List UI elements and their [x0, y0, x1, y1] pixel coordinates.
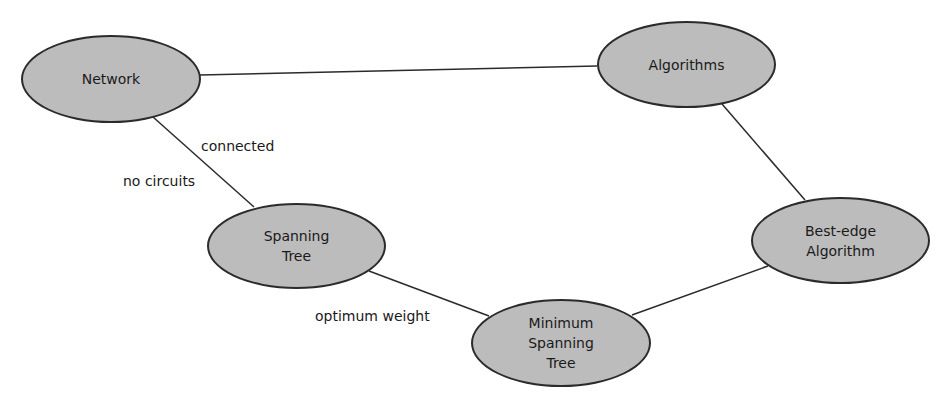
node-algorithms: Algorithms [597, 21, 776, 108]
node-label: Algorithms [649, 55, 725, 75]
node-minimum-spanning-tree: Minimum Spanning Tree [471, 299, 651, 387]
edge-network-algorithms [200, 66, 597, 75]
node-label: Minimum Spanning Tree [528, 313, 594, 373]
edge-algorithms-best-edge [722, 104, 805, 200]
edge-label-optimum-weight: optimum weight [315, 307, 430, 325]
edge-label-no-circuits: no circuits [123, 172, 195, 190]
node-best-edge-algorithm: Best-edge Algorithm [751, 197, 930, 284]
edge-network-spanning-tree [153, 117, 254, 207]
node-label: Best-edge Algorithm [805, 221, 876, 261]
edge-label-connected: connected [201, 137, 274, 155]
node-network: Network [21, 35, 201, 123]
node-spanning-tree: Spanning Tree [207, 203, 386, 289]
node-label: Network [82, 69, 140, 89]
node-label: Spanning Tree [264, 226, 330, 266]
concept-map-diagram: Network Algorithms Spanning Tree Minimum… [0, 0, 950, 412]
edge-minimum-spanning-tree-best-edge [632, 266, 768, 315]
